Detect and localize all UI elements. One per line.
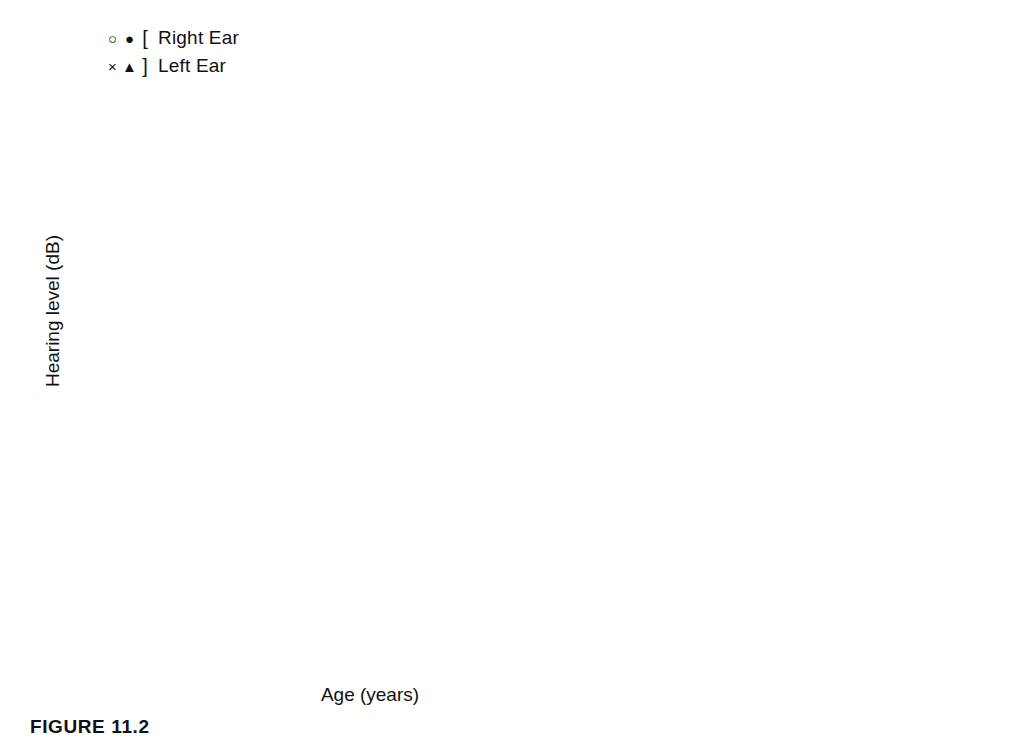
figure-root: ○ ● [ Right Ear × ▲ ] Left Ear Hearing l… — [0, 0, 1033, 750]
audiogram-panel-grid — [0, 0, 1033, 700]
figure-caption: FIGURE 11.2 — [30, 716, 150, 738]
